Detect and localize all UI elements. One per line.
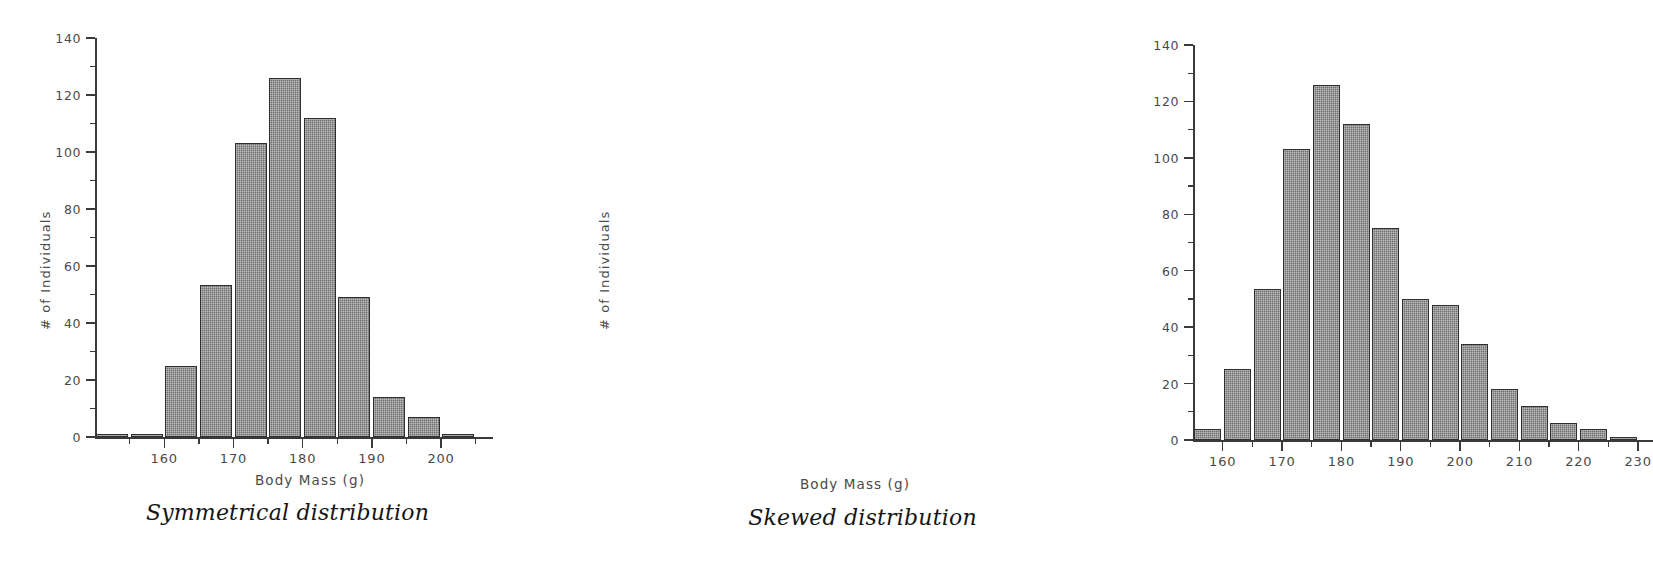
y-axis-tick-label: 140	[37, 31, 81, 46]
histogram-bar	[1224, 369, 1251, 440]
x-axis-line	[1193, 440, 1653, 442]
histogram-bar	[200, 285, 232, 437]
histogram-bar	[1283, 149, 1310, 440]
y-axis-tick-major	[1184, 44, 1193, 45]
x-axis-tick-minor	[1608, 442, 1609, 447]
y-axis-tick-major	[1184, 214, 1193, 215]
y-axis-tick-major	[86, 322, 95, 323]
y-axis-tick-label: 80	[1135, 207, 1179, 222]
y-axis-tick-label: 100	[1135, 150, 1179, 165]
x-axis-tick-major	[1519, 442, 1520, 451]
y-axis-tick-major	[86, 37, 95, 38]
y-axis-title-skewed: # of Individuals	[597, 211, 612, 330]
y-axis-tick-label: 120	[37, 88, 81, 103]
y-axis-tick-major	[1184, 439, 1193, 440]
histogram-bar	[1343, 124, 1370, 440]
y-axis-tick-label: 100	[37, 145, 81, 160]
histogram-bar	[1372, 228, 1399, 440]
x-axis-tick-label: 170	[220, 451, 247, 466]
y-axis-line	[1193, 45, 1195, 440]
y-axis-tick-minor	[1188, 411, 1193, 412]
x-axis-line	[95, 437, 493, 439]
y-axis-tick-minor	[1188, 185, 1193, 186]
y-axis-tick-minor	[90, 180, 95, 181]
histogram-bar	[1521, 406, 1548, 440]
x-axis-tick-minor	[267, 439, 268, 444]
histogram-bar	[1313, 85, 1340, 441]
x-axis-tick-minor	[1370, 442, 1371, 447]
histogram-bar	[1550, 423, 1577, 440]
histogram-bar	[235, 143, 267, 437]
y-axis-tick-minor	[90, 408, 95, 409]
caption-symmetrical: Symmetrical distribution	[0, 500, 575, 525]
x-axis-tick-major	[1341, 442, 1342, 451]
y-axis-tick-minor	[1188, 298, 1193, 299]
y-axis-tick-major	[1184, 326, 1193, 327]
histogram-bar	[442, 434, 474, 437]
y-axis-tick-major	[86, 94, 95, 95]
x-axis-tick-minor	[1252, 442, 1253, 447]
y-axis-tick-label: 40	[1135, 320, 1179, 335]
x-axis-title-symmetrical: Body Mass (g)	[255, 472, 365, 488]
x-axis-title-skewed: Body Mass (g)	[800, 476, 910, 492]
x-axis-tick-major	[1281, 442, 1282, 451]
x-axis-tick-minor	[198, 439, 199, 444]
y-axis-tick-label: 20	[1135, 376, 1179, 391]
histogram-bar	[131, 434, 163, 437]
histogram-bar	[1432, 305, 1459, 440]
plot-area-symmetrical: 020406080100120140160170180190200	[95, 38, 493, 437]
y-axis-tick-major	[1184, 157, 1193, 158]
y-axis-tick-major	[1184, 270, 1193, 271]
y-axis-tick-label: 0	[37, 430, 81, 445]
histogram-bar	[1461, 344, 1488, 440]
y-axis-tick-major	[1184, 101, 1193, 102]
x-axis-tick-major	[440, 439, 441, 448]
y-axis-tick-major	[86, 265, 95, 266]
y-axis-line	[95, 38, 97, 437]
x-axis-tick-major	[1637, 442, 1638, 451]
y-axis-tick-minor	[1188, 242, 1193, 243]
histogram-bar	[1402, 299, 1429, 440]
histogram-bar	[96, 434, 128, 437]
y-axis-tick-major	[86, 151, 95, 152]
x-axis-tick-label: 160	[151, 451, 178, 466]
y-axis-tick-minor	[90, 66, 95, 67]
histogram-bar	[1254, 289, 1281, 440]
y-axis-tick-minor	[90, 294, 95, 295]
y-axis-tick-minor	[1188, 73, 1193, 74]
x-axis-tick-minor	[1548, 442, 1549, 447]
x-axis-tick-major	[302, 439, 303, 448]
caption-skewed: Skewed distribution	[575, 505, 1150, 530]
x-axis-tick-minor	[129, 439, 130, 444]
histogram-bar	[1610, 437, 1637, 440]
x-axis-tick-label: 190	[358, 451, 385, 466]
x-axis-tick-major	[164, 439, 165, 448]
x-axis-tick-label: 230	[1625, 454, 1652, 469]
x-axis-tick-label: 200	[1446, 454, 1473, 469]
y-axis-tick-label: 140	[1135, 38, 1179, 53]
histogram-bar	[165, 366, 197, 437]
x-axis-tick-minor	[475, 439, 476, 444]
y-axis-tick-minor	[90, 351, 95, 352]
x-axis-tick-label: 180	[289, 451, 316, 466]
y-axis-tick-major	[1184, 383, 1193, 384]
x-axis-tick-label: 220	[1565, 454, 1592, 469]
y-axis-tick-label: 0	[1135, 433, 1179, 448]
x-axis-tick-major	[1400, 442, 1401, 451]
x-axis-tick-label: 190	[1387, 454, 1414, 469]
x-axis-tick-label: 160	[1209, 454, 1236, 469]
x-axis-tick-major	[233, 439, 234, 448]
x-axis-tick-label: 210	[1506, 454, 1533, 469]
y-axis-tick-label: 120	[1135, 94, 1179, 109]
y-axis-tick-minor	[1188, 355, 1193, 356]
x-axis-tick-minor	[337, 439, 338, 444]
histogram-bar	[338, 297, 370, 437]
x-axis-tick-major	[371, 439, 372, 448]
x-axis-tick-minor	[1311, 442, 1312, 447]
y-axis-tick-minor	[90, 237, 95, 238]
histogram-bar	[1580, 429, 1607, 440]
y-axis-tick-major	[86, 436, 95, 437]
x-axis-tick-major	[1459, 442, 1460, 451]
x-axis-tick-major	[1578, 442, 1579, 451]
